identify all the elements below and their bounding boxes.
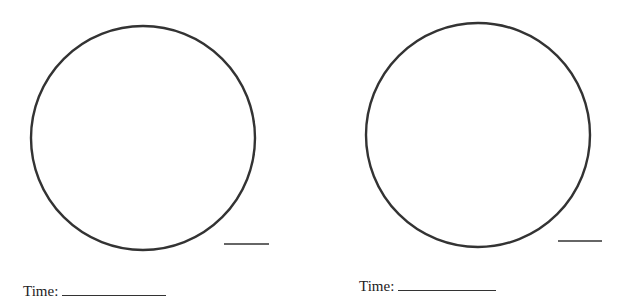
time-blank-2[interactable]: [398, 289, 496, 291]
time-label-2: Time:: [359, 278, 394, 294]
time-field-1: Time:: [23, 283, 166, 300]
time-label-1: Time:: [23, 283, 58, 299]
clock-face-circle-1: [31, 26, 255, 250]
time-blank-1[interactable]: [62, 294, 166, 296]
clock-face-circle-2: [366, 23, 590, 247]
worksheet-drawing: [0, 0, 633, 303]
time-field-2: Time:: [359, 278, 496, 295]
